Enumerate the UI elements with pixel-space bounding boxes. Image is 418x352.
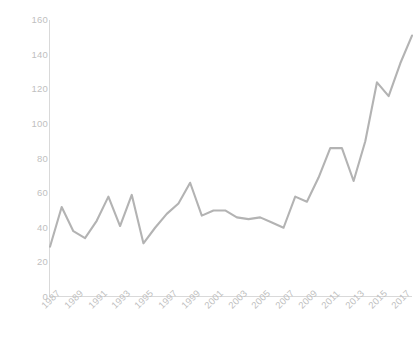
x-tick-label: 2015 — [366, 287, 389, 310]
x-tick-label: 2011 — [319, 288, 342, 311]
x-tick-label: 2013 — [343, 287, 366, 310]
x-tick-label: 1991 — [86, 287, 109, 310]
x-tick-label: 2009 — [296, 287, 319, 310]
x-tick-label: 1987 — [39, 287, 62, 310]
x-tick-label: 1989 — [62, 287, 85, 310]
x-tick-label: 2003 — [226, 287, 249, 310]
x-tick-label: 2017 — [389, 287, 412, 310]
x-tick-label: 1993 — [109, 287, 132, 310]
x-tick-label: 2005 — [249, 287, 272, 310]
x-tick-label: 2001 — [202, 287, 225, 310]
x-axis-tick-labels: 1987198919911993199519971999200120032005… — [0, 0, 418, 352]
x-tick-label: 1997 — [156, 287, 179, 310]
x-tick-label: 1999 — [179, 287, 202, 310]
line-chart: 020406080100120140160 198719891991199319… — [0, 0, 418, 352]
x-tick-label: 1995 — [132, 287, 155, 310]
x-tick-label: 2007 — [273, 287, 296, 310]
